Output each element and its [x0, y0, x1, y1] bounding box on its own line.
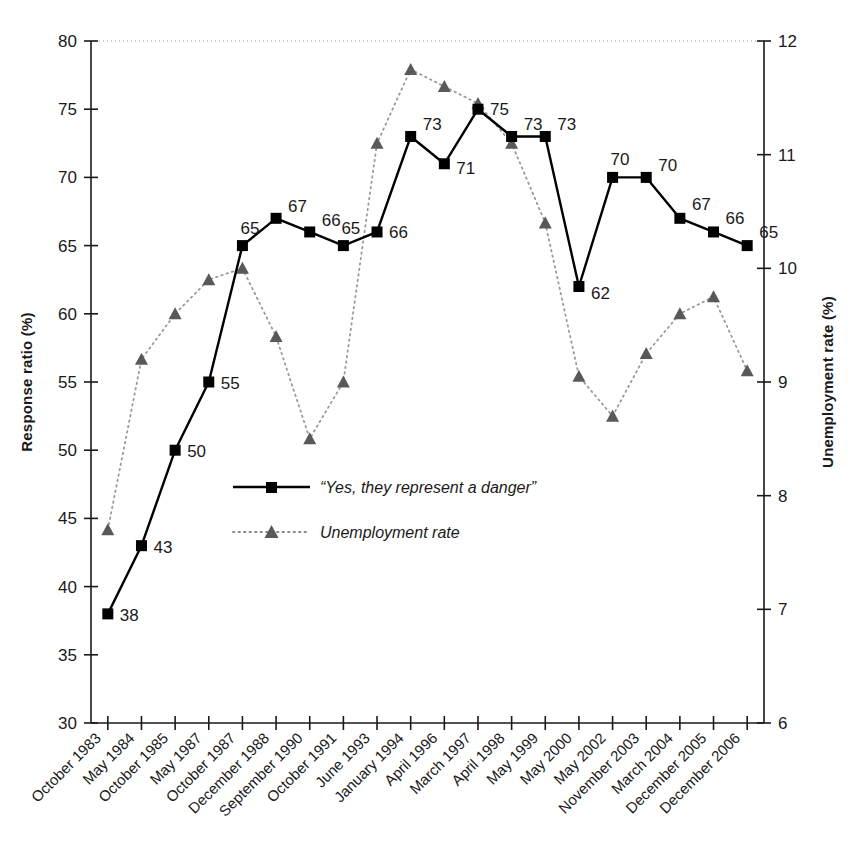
data-point-label: 65 — [240, 219, 259, 238]
left-tick-label: 65 — [58, 237, 77, 256]
left-tick-label: 75 — [58, 100, 77, 119]
right-tick-label: 6 — [778, 714, 787, 733]
data-point-label: 73 — [423, 115, 442, 134]
danger-square-marker-icon — [102, 608, 113, 619]
left-tick-label: 35 — [58, 646, 77, 665]
data-point-label: 65 — [759, 223, 778, 242]
danger-square-marker-icon — [607, 172, 618, 183]
data-point-label: 73 — [524, 115, 543, 134]
data-point-label: 65 — [341, 219, 360, 238]
data-point-label: 73 — [557, 115, 576, 134]
danger-square-marker-icon — [170, 445, 181, 456]
danger-square-marker-icon — [372, 226, 383, 237]
data-point-label: 66 — [322, 211, 341, 230]
data-point-label: 55 — [221, 374, 240, 393]
right-tick-label: 12 — [778, 32, 797, 51]
danger-square-marker-icon — [641, 172, 652, 183]
danger-square-marker-icon — [405, 131, 416, 142]
danger-square-marker-icon — [304, 226, 315, 237]
left-tick-label: 40 — [58, 578, 77, 597]
danger-square-marker-icon — [338, 240, 349, 251]
danger-square-marker-icon — [674, 213, 685, 224]
line-chart: 3035404550556065707580 6789101112 Octobe… — [0, 0, 857, 845]
danger-square-marker-icon — [136, 540, 147, 551]
data-point-label: 67 — [288, 197, 307, 216]
data-point-label: 62 — [591, 284, 610, 303]
data-point-label: 70 — [611, 150, 630, 169]
data-point-label: 43 — [153, 538, 172, 557]
danger-square-marker-icon — [237, 240, 248, 251]
left-tick-label: 45 — [58, 509, 77, 528]
left-tick-label: 80 — [58, 32, 77, 51]
left-tick-label: 60 — [58, 305, 77, 324]
left-tick-label: 55 — [58, 373, 77, 392]
legend-square-marker-icon — [266, 482, 277, 493]
data-point-label: 66 — [726, 209, 745, 228]
data-point-label: 38 — [120, 606, 139, 625]
danger-square-marker-icon — [203, 377, 214, 388]
right-tick-label: 9 — [778, 373, 787, 392]
danger-square-marker-icon — [742, 240, 753, 251]
data-point-label: 50 — [187, 442, 206, 461]
data-point-label: 70 — [658, 156, 677, 175]
right-axis-title: Unemployment rate (%) — [819, 296, 836, 468]
danger-square-marker-icon — [573, 281, 584, 292]
right-tick-label: 11 — [778, 146, 796, 165]
legend-label-unemployment: Unemployment rate — [320, 524, 460, 541]
right-tick-label: 7 — [778, 600, 787, 619]
data-point-label: 67 — [692, 195, 711, 214]
danger-square-marker-icon — [506, 131, 517, 142]
left-tick-label: 70 — [58, 168, 77, 187]
legend-label-danger: “Yes, they represent a danger” — [320, 479, 537, 496]
right-tick-label: 10 — [778, 259, 797, 278]
danger-square-marker-icon — [271, 213, 282, 224]
right-tick-label: 8 — [778, 487, 787, 506]
data-point-label: 75 — [490, 100, 509, 119]
left-tick-label: 50 — [58, 441, 77, 460]
data-point-label: 66 — [389, 223, 408, 242]
left-axis-title: Response ratio (%) — [18, 312, 35, 451]
danger-square-marker-icon — [708, 226, 719, 237]
danger-square-marker-icon — [472, 104, 483, 115]
danger-square-marker-icon — [439, 158, 450, 169]
left-tick-label: 30 — [58, 714, 77, 733]
data-point-label: 71 — [456, 159, 475, 178]
